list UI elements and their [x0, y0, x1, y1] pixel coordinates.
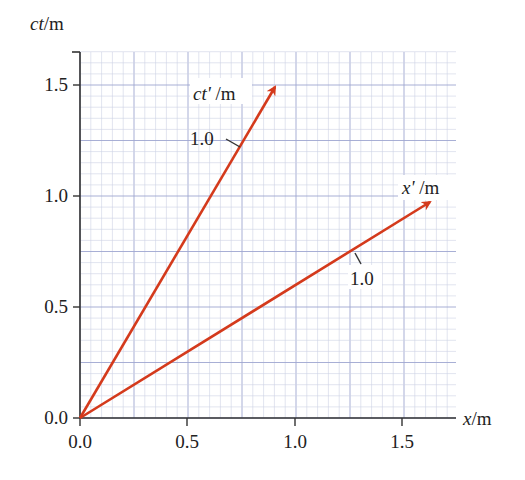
spacetime-diagram: 0.0 0.5 1.0 1.5 0.0 0.5 1.0 1.5 ct/m x/m… [0, 0, 525, 480]
ct-prime-axis-title: ct' /m [193, 83, 236, 104]
y-tick-label: 0.0 [44, 407, 68, 428]
x-tick-label: 0.5 [175, 431, 199, 452]
ct-prime-tick-label: 1.0 [190, 128, 214, 149]
x-tick-label: 1.5 [390, 431, 414, 452]
graph-paper-grid [80, 52, 456, 418]
x-ticks [80, 418, 402, 426]
y-axis-title: ct/m [30, 13, 64, 34]
x-prime-axis-title: x' /m [401, 177, 440, 198]
y-tick-label: 1.0 [44, 185, 68, 206]
x-tick-label: 1.0 [283, 431, 307, 452]
y-tick-label: 0.5 [44, 296, 68, 317]
y-ticks [73, 85, 80, 418]
x-axis-title: x/m [462, 408, 492, 429]
x-prime-tick-label: 1.0 [350, 268, 374, 289]
y-tick-label: 1.5 [44, 74, 68, 95]
x-prime-axis-arrow [80, 202, 430, 418]
x-tick-label: 0.0 [68, 431, 92, 452]
